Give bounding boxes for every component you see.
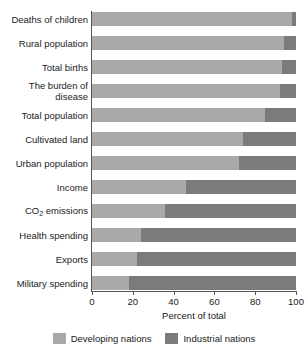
category-label: Exports [0,252,88,266]
bar-segment-industrial [141,228,296,242]
x-axis-tick-label: 80 [250,296,261,307]
category-label: Urban population [0,156,88,170]
bar-segment-developing [92,204,165,218]
bar-segment-developing [92,132,243,146]
bar-segment-developing [92,12,292,26]
bar-row [92,12,296,26]
bar-segment-industrial [265,108,296,122]
x-axis-line [91,291,297,292]
bar-row [92,180,296,194]
bar-segment-developing [92,252,137,266]
legend-swatch-developing-icon [53,333,66,344]
bar-segment-industrial [292,12,296,26]
bar-segment-industrial [137,252,296,266]
category-label: Deaths of children [0,12,88,26]
bar-row [92,276,296,290]
bar-row [92,84,296,98]
category-label: Total population [0,108,88,122]
bar-segment-developing [92,36,284,50]
bar-segment-developing [92,156,239,170]
legend-item-industrial: Industrial nations [165,333,255,344]
bar-segment-industrial [129,276,296,290]
category-label: Cultivated land [0,132,88,146]
bar-row [92,204,296,218]
x-axis-tick-label: 20 [128,296,139,307]
legend-label-industrial: Industrial nations [183,333,255,344]
bar-segment-industrial [280,84,296,98]
x-axis-tick [133,291,134,295]
stacked-bar-chart: Deaths of children Rural population Tota… [0,0,308,353]
bar-row [92,108,296,122]
legend-item-developing: Developing nations [53,333,152,344]
y-axis-line [91,11,92,291]
bar-segment-industrial [243,132,296,146]
x-axis-tick [92,291,93,295]
bar-row [92,156,296,170]
bar-rows [92,12,296,290]
bar-segment-developing [92,276,129,290]
bar-row [92,132,296,146]
x-axis-tick-label: 40 [168,296,179,307]
x-axis-tick [296,291,297,295]
bar-segment-developing [92,84,280,98]
legend-label-developing: Developing nations [71,333,152,344]
x-axis-tick-label: 0 [89,296,94,307]
bar-segment-developing [92,108,265,122]
bar-row [92,60,296,74]
bar-segment-industrial [239,156,296,170]
x-axis-tick [174,291,175,295]
bar-segment-industrial [186,180,296,194]
x-axis-tick-label: 60 [209,296,220,307]
category-label: Rural population [0,36,88,50]
x-axis-tick-label: 100 [288,296,304,307]
bar-segment-developing [92,228,141,242]
chart-legend: Developing nations Industrial nations [0,333,308,344]
bar-segment-developing [92,60,282,74]
bar-row [92,36,296,50]
x-axis-tick [214,291,215,295]
plot-area [92,12,296,290]
bar-row [92,228,296,242]
x-axis-title: Percent of total [92,310,296,321]
category-label: Income [0,180,88,194]
bar-row [92,252,296,266]
category-label: Total births [0,60,88,74]
category-label: The burden ofdisease [0,84,88,98]
category-label: Military spending [0,276,88,290]
category-label: CO2 emissions [0,204,88,218]
category-label: Health spending [0,228,88,242]
bar-segment-industrial [165,204,296,218]
legend-swatch-industrial-icon [165,333,178,344]
bar-segment-industrial [282,60,296,74]
bar-segment-industrial [284,36,296,50]
x-axis-tick [255,291,256,295]
category-axis-labels: Deaths of children Rural population Tota… [0,12,88,290]
bar-segment-developing [92,180,186,194]
